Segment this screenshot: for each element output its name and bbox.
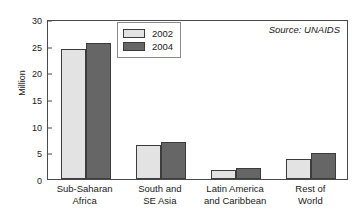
plot-area: 051015202530 20022004 Source: UNAIDS [47,20,348,180]
bar-2002-2 [136,145,161,179]
bar-group [274,21,349,179]
y-axis-tick-label: 25 [32,43,48,53]
y-axis-title: Million [17,61,27,105]
bar-2004-4 [311,153,336,179]
bar-2004-3 [236,168,261,179]
bar-2002-4 [286,159,311,179]
y-axis-tick-label: 10 [32,123,48,133]
legend-swatch-2004 [123,42,145,51]
y-axis-tick-label: 20 [32,69,48,79]
legend-label: 2002 [152,28,173,39]
legend-swatch-2002 [123,29,145,38]
x-axis-category-label: Rest ofWorld [265,183,356,207]
bar-group [199,21,274,179]
y-axis-tick-label: 30 [32,16,48,26]
x-axis-category-line: Rest of [265,183,356,195]
bar-2002-3 [211,170,236,179]
x-axis-category-line: World [265,195,356,207]
y-axis-tick-label: 5 [37,149,48,159]
chart-legend: 20022004 [117,22,181,58]
legend-item-2004[interactable]: 2004 [123,40,173,53]
source-annotation: Source: UNAIDS [269,24,340,35]
y-axis-tick-label: 15 [32,96,48,106]
bar-2004-1 [86,43,111,179]
chart-figure: Million 051015202530 20022004 Source: UN… [0,0,357,216]
legend-label: 2004 [152,41,173,52]
bar-2002-1 [61,49,86,179]
bar-group [48,21,123,179]
legend-item-2002[interactable]: 2002 [123,27,173,40]
bar-2004-2 [161,142,186,179]
